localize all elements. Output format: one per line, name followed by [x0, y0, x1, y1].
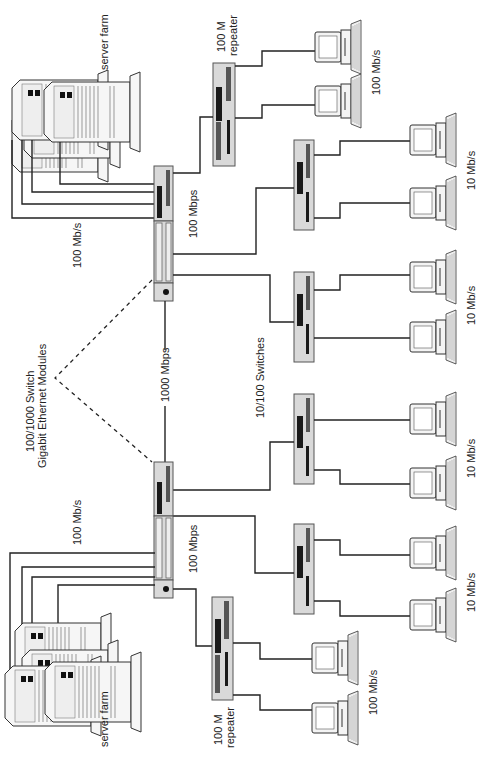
server-farm-top-label: server farm: [98, 14, 110, 70]
gigabit-module-pointer: [55, 280, 152, 462]
workstation: [410, 310, 456, 364]
pc-rate-10-c: 10 Mb/s: [465, 438, 477, 478]
workstation: [410, 250, 456, 304]
workstation: [410, 526, 456, 580]
workstation: [410, 588, 456, 642]
workstation: [410, 113, 456, 167]
pc-rate-10-d: 10 Mb/s: [465, 572, 477, 612]
repeater-top-label-1: 100 M: [215, 21, 227, 52]
repeater-top-label-2: repeater: [227, 15, 239, 56]
workstation: [410, 392, 456, 446]
server-farm-bottom: [5, 613, 141, 736]
link-servers-bottom-label: 100 Mb/s: [71, 499, 83, 545]
access-switch-3: [294, 394, 314, 484]
repeater-top: [213, 63, 235, 166]
workstation: [315, 20, 361, 74]
workstation: [312, 631, 358, 685]
workstation: [410, 176, 456, 230]
backbone-speed-label: 1000 Mbps: [159, 347, 171, 402]
core-caption-line2: Gigabit Ethernet Modules: [36, 343, 48, 468]
access-switch-1: [294, 140, 314, 230]
pc-rate-100-top: 100 Mb/s: [370, 49, 382, 95]
core-bottom-speed-label: 100 Mbps: [187, 524, 199, 573]
workstation: [315, 74, 361, 128]
server-farm-top: [12, 70, 140, 182]
core-switch-bottom: [154, 462, 173, 598]
access-switch-4: [294, 524, 314, 614]
core-caption-line1: 100/1000 Switch: [24, 371, 36, 452]
workstation: [312, 691, 358, 745]
access-switch-2: [294, 272, 314, 362]
access-switches-caption: 10/100 Switches: [254, 337, 266, 418]
network-diagram: server farm 100 Mb/s 100 Mbps 100 M repe…: [0, 0, 490, 761]
server-farm-bottom-label: server farm: [98, 691, 110, 747]
core-switch-top: [154, 166, 173, 301]
pc-rate-100-bottom: 100 Mb/s: [367, 669, 379, 715]
core-top-speed-label: 100 Mbps: [187, 189, 199, 238]
repeater-bottom-label-2: repeater: [224, 707, 236, 748]
pc-rate-10-a: 10 Mb/s: [465, 150, 477, 190]
pc-rate-10-b: 10 Mb/s: [465, 285, 477, 325]
link-servers-top-label: 100 Mb/s: [71, 222, 83, 268]
workstation: [410, 456, 456, 510]
repeater-bottom-label-1: 100 M: [212, 714, 224, 745]
repeater-bottom: [212, 597, 233, 700]
